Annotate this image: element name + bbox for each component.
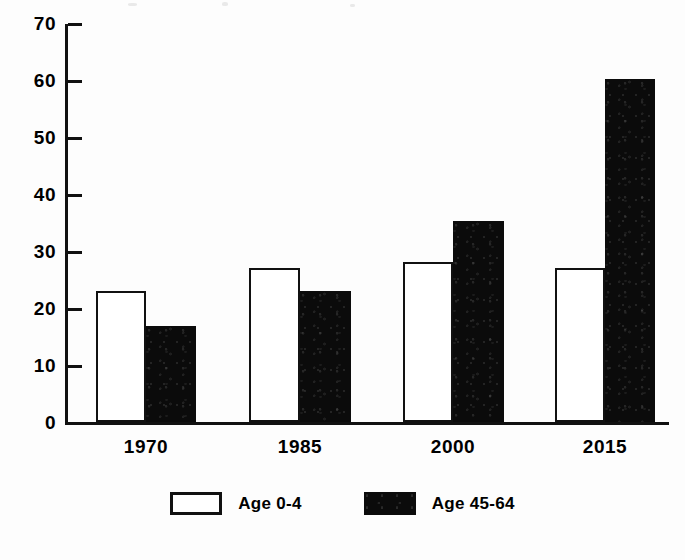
x-axis-label-2000: 2000 bbox=[403, 437, 503, 456]
bar-1970-age-45-64 bbox=[146, 326, 196, 422]
x-axis-label-1985: 1985 bbox=[250, 437, 350, 456]
legend-item-age-0-4: Age 0-4 bbox=[170, 492, 302, 515]
legend-label-age-0-4: Age 0-4 bbox=[238, 494, 302, 514]
x-axis-line bbox=[65, 422, 669, 425]
plot-area: 70 60 50 40 30 20 10 0 bbox=[0, 0, 685, 470]
legend-label-age-45-64: Age 45-64 bbox=[432, 494, 515, 514]
legend-item-age-45-64: Age 45-64 bbox=[364, 492, 515, 515]
bars-layer bbox=[0, 0, 685, 422]
bar-1985-age-45-64 bbox=[300, 291, 351, 422]
bar-1985-age-0-4 bbox=[249, 268, 300, 422]
bar-2000-age-45-64 bbox=[453, 221, 504, 422]
bar-chart: 70 60 50 40 30 20 10 0 bbox=[0, 0, 685, 560]
bar-2015-age-45-64 bbox=[605, 79, 655, 422]
chart-legend: Age 0-4 Age 45-64 bbox=[0, 492, 685, 515]
bar-2015-age-0-4 bbox=[555, 268, 605, 422]
x-axis-label-1970: 1970 bbox=[96, 437, 196, 456]
legend-swatch-white-icon bbox=[170, 492, 222, 515]
x-axis-label-2015: 2015 bbox=[555, 437, 655, 456]
legend-swatch-black-icon bbox=[364, 492, 416, 515]
bar-1970-age-0-4 bbox=[96, 291, 146, 422]
bar-2000-age-0-4 bbox=[403, 262, 453, 422]
